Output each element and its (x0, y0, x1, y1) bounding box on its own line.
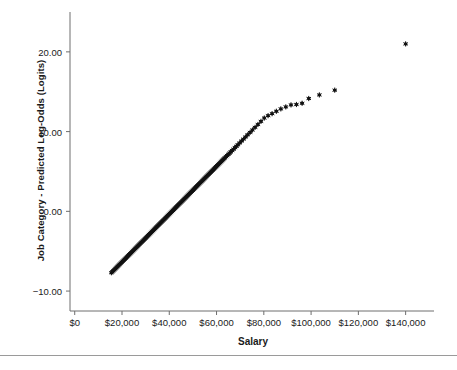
plot-area (0, 0, 457, 370)
x-tick-label: $120,000 (339, 317, 379, 328)
x-axis-title: Salary (70, 336, 436, 347)
data-points (109, 41, 408, 275)
y-tick-label: −10.00 (0, 286, 62, 297)
x-tick-label: $140,000 (386, 317, 426, 328)
data-point (403, 41, 408, 46)
x-tick-label: $100,000 (291, 317, 331, 328)
data-point (284, 104, 289, 109)
scatter-chart: Job Category - Predicted Log-Odds (Logit… (0, 0, 457, 370)
data-point (289, 102, 294, 107)
data-point (266, 113, 271, 118)
data-point (279, 106, 284, 111)
data-point (317, 92, 322, 97)
data-point (274, 109, 279, 114)
data-point (332, 88, 337, 93)
y-tick-label: 20.00 (0, 46, 62, 57)
data-point (294, 102, 299, 107)
data-point (300, 101, 305, 106)
x-tick-label: $40,000 (152, 317, 186, 328)
y-axis-ticks (66, 52, 70, 291)
x-tick-label: $20,000 (105, 317, 139, 328)
y-tick-label: 0.00 (0, 206, 62, 217)
x-axis-ticks (75, 311, 406, 315)
x-tick-label: $60,000 (199, 317, 233, 328)
x-tick-label: $0 (69, 317, 80, 328)
data-point (270, 111, 275, 116)
y-tick-label: 10.00 (0, 126, 62, 137)
x-tick-label: $80,000 (247, 317, 281, 328)
data-point (306, 96, 311, 101)
footer-divider (0, 355, 457, 356)
